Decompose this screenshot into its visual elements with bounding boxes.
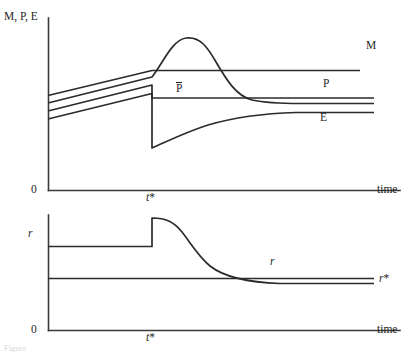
curve-label-money-M: M <box>366 40 376 52</box>
lower-origin-label: 0 <box>31 324 37 336</box>
price-fixed-overbar-text: P <box>176 82 182 95</box>
upper-origin-label: 0 <box>31 184 37 196</box>
lower-x-axis-label: time <box>377 324 397 336</box>
curve-label-E: E <box>320 112 327 124</box>
figure-root: M, P, E M P E P 0 t* time r r r* 0 t* ti… <box>0 0 412 352</box>
lower-y-axis-label: r <box>28 228 32 240</box>
curve-label-steady-state-rate-rstar: r* <box>379 273 389 285</box>
figure-drawing <box>0 0 412 352</box>
curve-label-interest-rate-r: r <box>270 256 274 268</box>
steady-state-star: * <box>383 272 389 284</box>
curve-interest-rate-r <box>48 218 374 284</box>
upper-y-axis-label: M, P, E <box>4 11 38 23</box>
upper-event-tick-label: t* <box>146 192 155 204</box>
upper-x-axis-label: time <box>377 184 397 196</box>
curve-label-exchange-rate-P: P <box>323 78 329 90</box>
lower-event-tick-star: * <box>149 331 155 343</box>
lower-event-tick-label: t* <box>146 332 155 344</box>
upper-event-tick-star: * <box>149 191 155 203</box>
curve-label-price-fixed-Pbar: P <box>176 82 182 95</box>
figure-caption: Figure <box>4 343 26 352</box>
